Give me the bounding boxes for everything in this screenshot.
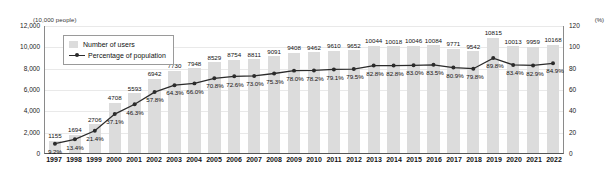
left-axis-tick-label: 0 (14, 150, 40, 157)
x-axis-tick-label: 2021 (524, 156, 544, 163)
x-axis-tick-label: 2010 (304, 156, 324, 163)
x-axis-tick-label: 1997 (44, 156, 64, 163)
percentage-value-label: 83.5% (426, 69, 444, 76)
x-axis-tick-label: 2005 (204, 156, 224, 163)
x-axis-tick-label: 2014 (384, 156, 404, 163)
right-axis-tick-label: 20 (569, 129, 595, 136)
right-axis-tick-label: 40 (569, 107, 595, 114)
chart-legend: Number of users Percentage of population (63, 35, 174, 65)
x-axis-ticks: 1997199819992000200120022003200420052006… (44, 156, 564, 163)
x-axis-tick-label: 2015 (404, 156, 424, 163)
x-axis-tick-label: 2013 (364, 156, 384, 163)
x-axis-tick-label: 2020 (504, 156, 524, 163)
x-axis-tick-label: 2019 (484, 156, 504, 163)
x-axis-tick-label: 2012 (344, 156, 364, 163)
percentage-value-label: 75.3% (266, 78, 284, 85)
percentage-value-label: 83.4% (506, 69, 524, 76)
percentage-value-label: 89.8% (486, 62, 504, 69)
percentage-value-label: 72.6% (226, 81, 244, 88)
left-axis-tick-label: 2,000 (14, 129, 40, 136)
x-axis-tick-label: 2008 (264, 156, 284, 163)
percentage-value-label: 78.2% (306, 75, 324, 82)
left-axis-tick-label: 12,000 (14, 22, 40, 29)
percentage-value-label: 13.4% (66, 144, 84, 151)
right-axis-tick-label: 0 (569, 150, 595, 157)
percentage-value-label: 82.9% (526, 70, 544, 77)
legend-item-number-of-users: Number of users (69, 39, 166, 50)
right-axis-tick-label: 100 (569, 43, 595, 50)
percentage-value-label: 83.0% (406, 69, 424, 76)
left-axis-tick-label: 8,000 (14, 65, 40, 72)
x-axis-tick-label: 1998 (64, 156, 84, 163)
x-axis-tick-label: 2016 (424, 156, 444, 163)
percentage-value-label: 78.0% (286, 75, 304, 82)
percentage-value-label: 70.8% (206, 82, 224, 89)
x-axis-tick-label: 2003 (164, 156, 184, 163)
x-axis-tick-label: 2007 (244, 156, 264, 163)
percentage-value-label: 73.0% (246, 80, 264, 87)
percentage-value-label: 79.8% (466, 73, 484, 80)
percentage-value-label: 80.9% (446, 72, 464, 79)
percentage-value-label: 46.3% (126, 109, 144, 116)
x-axis-tick-label: 1999 (84, 156, 104, 163)
right-axis-unit-label: (%) (595, 17, 604, 23)
x-axis-tick-label: 2009 (284, 156, 304, 163)
percentage-value-label: 37.1% (106, 118, 124, 125)
percentage-value-label: 66.0% (186, 88, 204, 95)
legend-label-users: Number of users (83, 41, 135, 48)
x-axis-tick-label: 2001 (124, 156, 144, 163)
percentage-value-label: 21.4% (86, 135, 104, 142)
x-axis-tick-label: 2017 (444, 156, 464, 163)
percentage-value-label: 64.3% (166, 89, 184, 96)
x-axis-tick-label: 2006 (224, 156, 244, 163)
legend-label-percentage: Percentage of population (88, 52, 166, 59)
left-axis-tick-label: 4,000 (14, 107, 40, 114)
legend-item-percentage: Percentage of population (69, 50, 166, 61)
x-axis-tick-label: 2000 (104, 156, 124, 163)
line-marker-icon (69, 52, 85, 59)
x-axis-tick-label: 2002 (144, 156, 164, 163)
x-axis-tick-label: 2011 (324, 156, 344, 163)
percentage-value-label: 84.9% (546, 67, 564, 74)
x-axis-tick-label: 2022 (544, 156, 564, 163)
percentage-value-label: 82.8% (386, 70, 404, 77)
left-axis-tick-label: 6,000 (14, 86, 40, 93)
right-axis-tick-label: 120 (569, 22, 595, 29)
percentage-value-label: 79.1% (326, 74, 344, 81)
percentage-value-label: 57.8% (146, 96, 164, 103)
left-axis-tick-label: 10,000 (14, 43, 40, 50)
right-axis-tick-label: 60 (569, 86, 595, 93)
chart-container: (10,000 people) (%) 11551694270647085593… (0, 0, 608, 180)
percentage-value-label: 9.2% (48, 148, 62, 155)
percentage-value-label: 79.5% (346, 73, 364, 80)
x-axis-tick-label: 2018 (464, 156, 484, 163)
right-axis-tick-label: 80 (569, 65, 595, 72)
percentage-value-label: 82.8% (366, 70, 384, 77)
bar-swatch-icon (69, 41, 78, 48)
x-axis-tick-label: 2004 (184, 156, 204, 163)
